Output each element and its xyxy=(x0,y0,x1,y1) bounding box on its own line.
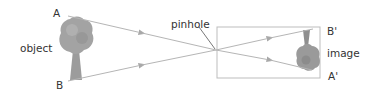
ray-a-inside xyxy=(216,50,270,60)
image-tree-icon xyxy=(296,30,320,71)
label-image: image xyxy=(327,47,360,59)
label-point-a-image: A' xyxy=(328,70,338,82)
label-point-b: B xyxy=(56,79,63,91)
pinhole-leader-line xyxy=(199,27,215,49)
ray-b-to-pinhole xyxy=(142,50,216,65)
label-pinhole: pinhole xyxy=(171,18,210,30)
pinhole-diagram: A B object pinhole B' image A' xyxy=(0,0,375,94)
label-object: object xyxy=(20,42,52,54)
ray-b-inside xyxy=(216,38,270,50)
object-tree-icon xyxy=(59,16,93,80)
label-point-a: A xyxy=(53,7,61,19)
label-point-b-image: B' xyxy=(327,25,337,37)
